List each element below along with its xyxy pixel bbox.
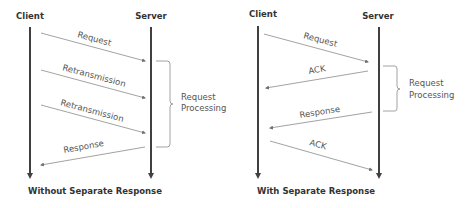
message-label: ACK: [308, 137, 328, 151]
diagram-caption: With Separate Response: [257, 186, 375, 196]
processing-label-line1: Request: [409, 78, 444, 88]
message-label: Request: [76, 29, 113, 48]
message-label: ACK: [308, 63, 327, 76]
server-label: Server: [362, 11, 394, 21]
sequence-diagrams: Client Server Request Retransmission Ret…: [0, 0, 469, 208]
processing-brace: [383, 66, 400, 111]
processing-label-line2: Processing: [409, 90, 454, 100]
diagram-without-separate-response: Client Server Request Retransmission Ret…: [16, 11, 226, 196]
processing-brace: [156, 61, 173, 147]
message-label: Retransmission: [61, 62, 126, 88]
processing-label-line1: Request: [181, 92, 216, 102]
client-label: Client: [249, 9, 277, 19]
client-label: Client: [16, 11, 44, 21]
diagram-with-separate-response: Client Server Request ACK Request Proces…: [249, 9, 454, 196]
server-label: Server: [135, 11, 167, 21]
processing-label-line2: Processing: [181, 103, 226, 113]
diagram-caption: Without Separate Response: [28, 186, 162, 196]
message-label: Retransmission: [59, 97, 124, 123]
message-label: Response: [63, 138, 105, 155]
